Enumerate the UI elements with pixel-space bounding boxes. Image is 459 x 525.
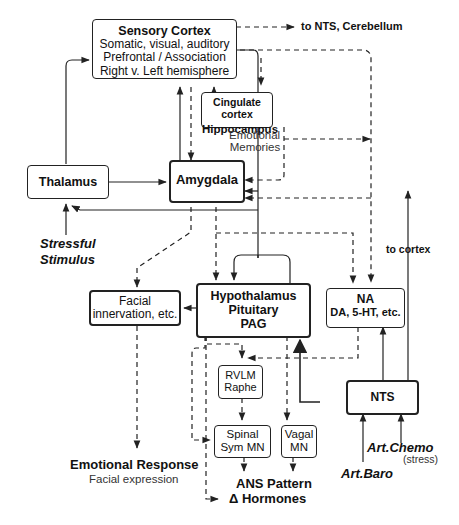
hypothalamus-line-2: Pituitary bbox=[198, 303, 309, 317]
vagal-mn-box: Vagal MN bbox=[281, 425, 317, 458]
nts-box: NTS bbox=[346, 380, 419, 415]
emotional-memories-line-2: Memories bbox=[229, 141, 280, 153]
emotional-memories-line-1: Emotional bbox=[229, 129, 280, 141]
art-baro-label: Art.Baro bbox=[341, 466, 393, 481]
hormones-label: Δ Hormones bbox=[229, 491, 306, 506]
hypothalamus-line-3: PAG bbox=[198, 317, 309, 331]
vagal-mn-label: MN bbox=[282, 441, 316, 454]
emotional-response-label: Emotional Response bbox=[70, 457, 199, 472]
emotional-memories-label: Emotional Memories bbox=[229, 129, 280, 153]
sensory-cortex-line-2: Prefrontal / Association bbox=[93, 51, 236, 64]
sensory-cortex-line-1: Somatic, visual, auditory bbox=[93, 38, 236, 51]
rvlm-raphe-box: RVLM Raphe bbox=[218, 365, 263, 399]
cingulate-label: Cingulate cortex bbox=[202, 97, 272, 121]
spinal-label: Spinal bbox=[215, 428, 270, 441]
facial-innervation-box: Facial innervation, etc. bbox=[89, 290, 181, 326]
thalamus-title: Thalamus bbox=[28, 175, 108, 189]
rvlm-label: RVLM bbox=[219, 369, 262, 381]
nts-title: NTS bbox=[348, 391, 417, 404]
na-box: NA DA, 5-HT, etc. bbox=[326, 288, 405, 328]
vagal-label: Vagal bbox=[282, 428, 316, 441]
facial-expression-label: Facial expression bbox=[89, 473, 178, 485]
sym-mn-label: Sym MN bbox=[215, 441, 270, 454]
hypothalamus-box: Hypothalamus Pituitary PAG bbox=[196, 283, 311, 338]
ans-pattern-label: ANS Pattern bbox=[236, 476, 312, 491]
sensory-cortex-box: Sensory Cortex Somatic, visual, auditory… bbox=[92, 19, 237, 79]
na-subtitle: DA, 5-HT, etc. bbox=[327, 306, 404, 318]
cingulate-hippocampus-box: Cingulate cortex Hippocampus bbox=[201, 92, 273, 128]
hypothalamus-line-1: Hypothalamus bbox=[198, 289, 309, 303]
na-title: NA bbox=[327, 293, 404, 306]
spinal-sym-mn-box: Spinal Sym MN bbox=[214, 425, 271, 458]
facial-line-2: innervation, etc. bbox=[91, 308, 179, 321]
stress-label: (stress) bbox=[403, 453, 438, 465]
amygdala-title: Amygdala bbox=[171, 173, 243, 188]
to-cortex-label: to cortex bbox=[386, 243, 430, 255]
sensory-cortex-title: Sensory Cortex bbox=[93, 24, 236, 38]
thalamus-box: Thalamus bbox=[27, 165, 109, 199]
stimulus-line: Stimulus bbox=[40, 252, 96, 268]
stressful-line: Stressful bbox=[40, 236, 96, 252]
stressful-stimulus-label: Stressful Stimulus bbox=[40, 236, 96, 269]
to-nts-cerebellum-label: to NTS, Cerebellum bbox=[301, 20, 402, 32]
sensory-cortex-line-3: Right v. Left hemisphere bbox=[93, 65, 236, 78]
facial-line-1: Facial bbox=[91, 295, 179, 308]
amygdala-box: Amygdala bbox=[169, 160, 245, 203]
raphe-label: Raphe bbox=[219, 381, 262, 393]
